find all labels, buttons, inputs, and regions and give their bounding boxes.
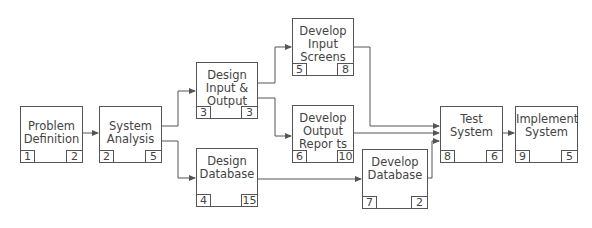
node-right-value: 2 <box>66 150 83 163</box>
node-develop-output-reports: Develop Output Repor ts 6 10 <box>292 105 354 163</box>
node-right-value: 8 <box>337 63 354 76</box>
node-left-value: 6 <box>292 150 307 163</box>
node-left-value: 7 <box>362 196 377 209</box>
edge-analysis-to-ddb <box>162 141 195 178</box>
node-label: Design Database <box>197 155 257 181</box>
node-design-database: Design Database 4 15 <box>196 148 258 207</box>
node-problem-definition: Problem Definition 1 2 <box>20 106 83 163</box>
node-system-analysis: System Analysis 2 5 <box>99 106 162 163</box>
node-right-value: 5 <box>561 150 578 163</box>
node-left-value: 4 <box>196 194 211 207</box>
edge-devdb-to-test <box>428 141 439 178</box>
node-develop-database: Develop Database 7 2 <box>362 149 428 209</box>
node-develop-input-screens: Develop Input Screens 5 8 <box>292 18 354 76</box>
edge-dio-to-dor <box>258 98 291 136</box>
node-label: Develop Output Repor ts <box>293 112 353 151</box>
node-left-value: 5 <box>292 63 307 76</box>
node-implement-system: Implement System 9 5 <box>515 106 578 163</box>
node-label: Problem Definition <box>21 120 82 146</box>
node-label: Develop Database <box>363 156 427 182</box>
node-right-value: 10 <box>337 150 354 163</box>
node-label: Implement System <box>516 113 577 139</box>
node-label: Develop Input Screens <box>293 25 353 64</box>
edge-dio-to-dis <box>258 47 291 83</box>
node-label: System Analysis <box>100 120 161 146</box>
node-label: Design Input & Output <box>197 69 257 108</box>
edge-dis-to-test <box>354 47 439 126</box>
node-left-value: 2 <box>99 150 114 163</box>
node-left-value: 8 <box>440 150 455 163</box>
node-left-value: 1 <box>20 150 35 163</box>
node-right-value: 2 <box>411 196 428 209</box>
node-label: Test System <box>441 113 502 139</box>
node-right-value: 5 <box>145 150 162 163</box>
node-left-value: 9 <box>515 150 530 163</box>
node-right-value: 6 <box>486 150 503 163</box>
edge-analysis-to-dio <box>162 91 195 126</box>
node-left-value: 3 <box>196 106 211 119</box>
node-design-input-output: Design Input & Output 3 3 <box>196 62 258 119</box>
node-right-value: 3 <box>241 106 258 119</box>
node-test-system: Test System 8 6 <box>440 106 503 163</box>
node-right-value: 15 <box>241 194 258 207</box>
